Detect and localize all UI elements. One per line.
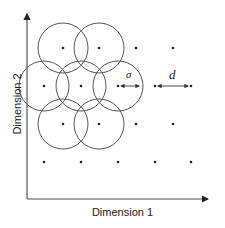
grid-point <box>190 161 193 164</box>
y-axis-label: Dimension 2 <box>11 59 23 149</box>
grid-point <box>135 123 138 126</box>
grid-point <box>43 161 46 164</box>
grid-point <box>154 85 157 88</box>
d-label: d <box>169 67 176 83</box>
grid-point <box>62 123 65 126</box>
grid-point <box>117 161 120 164</box>
grid-point <box>80 85 83 88</box>
grid-point <box>117 85 120 88</box>
x-axis-label: Dimension 1 <box>0 206 225 218</box>
diagram-canvas <box>0 0 225 228</box>
grid-point <box>80 161 83 164</box>
grid-point <box>98 47 101 50</box>
grid-point <box>62 47 65 50</box>
grid-point <box>172 123 175 126</box>
grid-point <box>172 47 175 50</box>
grid-point <box>98 123 101 126</box>
grid-point <box>154 161 157 164</box>
grid-point <box>190 85 193 88</box>
grid-point <box>43 85 46 88</box>
grid-point <box>135 47 138 50</box>
sigma-label: σ <box>126 68 131 80</box>
